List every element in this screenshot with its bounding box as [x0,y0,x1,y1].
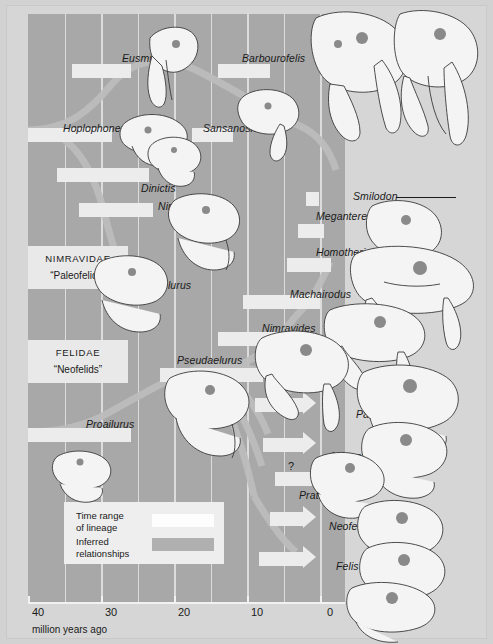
legend-swatch-time-range [152,514,214,527]
taxon-label-barbourofelis: Barbourofelis [242,52,305,64]
taxon-label-homotherium: Homotherium [316,246,380,258]
taxon-label-pseudaelurus: Pseudaelurus [177,354,242,366]
range-bar-panthera [255,398,303,412]
evolution-time-chart: Eusmilus Hoplophoneus Barbourofelis Sans… [0,0,493,644]
uncertainty-marker: ? [288,460,294,472]
arrowhead-felis [303,546,316,568]
taxon-label-megantereon: Megantereon [316,210,379,222]
axis-caption: million years ago [32,624,107,635]
taxon-label-felis: Felis [336,560,359,572]
family-name-felidae: FELIDAE [38,347,118,358]
family-nickname-felidae: “Neofelids” [38,364,118,375]
family-box-nimravidae: NIMRAVIDAE “Paleofelids” [28,246,128,289]
range-bar-proailurus [28,428,131,442]
legend: Time range of lineage Inferred relations… [64,502,224,564]
axis-line [28,602,345,604]
range-bar-homotherium [287,258,331,272]
range-bar-megantereon [298,224,324,238]
axis-label-40: 40 [32,606,44,618]
family-nickname-nimravidae: “Paleofelids” [38,270,118,281]
arrowhead-panthera [303,392,316,414]
range-bar-nimravus [79,203,153,217]
axis-label-30: 30 [105,606,117,618]
legend-label-time-range: Time range of lineage [76,510,124,534]
family-box-felidae: FELIDAE “Neofelids” [28,340,128,383]
axis-label-0: 0 [327,606,333,618]
range-bar-nimravides [218,332,277,346]
taxon-label-sansanosmilus: Sansanosmilus [203,122,276,134]
legend-swatch-inferred [152,538,214,551]
family-name-nimravidae: NIMRAVIDAE [38,253,118,264]
legend-label-inferred: Inferred relationships [76,536,129,560]
range-bar-pseudaelurus [160,368,263,382]
taxon-label-smilodon: Smilodon [353,190,398,202]
taxon-label-dinictis: Dinictis [141,182,176,194]
taxon-label-nimravus: Nimravus [158,200,203,212]
axis-label-20: 20 [178,606,190,618]
range-bar-pratifelis [275,472,312,486]
taxon-label-neofelis: Neofelis [329,520,368,532]
taxon-label-proailurus: Proailurus [86,418,134,430]
axis-tick-30 [101,596,103,604]
arrowhead-neofelis [303,506,316,528]
axis-tick-40 [28,596,30,604]
taxon-label-pratifelis: Pratifelis [299,489,340,501]
leader-line-smilodon [396,196,456,199]
axis-label-10: 10 [251,606,263,618]
taxon-label-acinonyx: Acinonyx [329,450,372,462]
axis-tick-0 [320,596,322,604]
range-bar-felis [259,552,303,566]
taxon-label-dinaelurus: Dinaelurus [140,279,191,291]
taxon-label-eusmilus: Eusmilus [122,52,165,64]
range-bar-acinonyx [263,438,303,452]
range-bar-neofelis [270,512,303,526]
arrowhead-acinonyx [303,432,316,454]
range-bar-smilodon [306,192,319,206]
gridline-0ma [320,14,322,602]
range-bar-dinictis [57,168,149,182]
range-bar-eusmilus [72,64,131,78]
taxon-label-hoplophoneus: Hoplophoneus [63,122,132,134]
taxon-label-nimravides: Nimravides [262,322,316,334]
axis-tick-20 [174,596,176,604]
taxon-label-machairodus: Machairodus [290,288,351,300]
range-bar-barbourofelis [218,64,270,78]
axis-tick-10 [247,596,249,604]
taxon-label-panthera: Panthera [356,408,399,420]
